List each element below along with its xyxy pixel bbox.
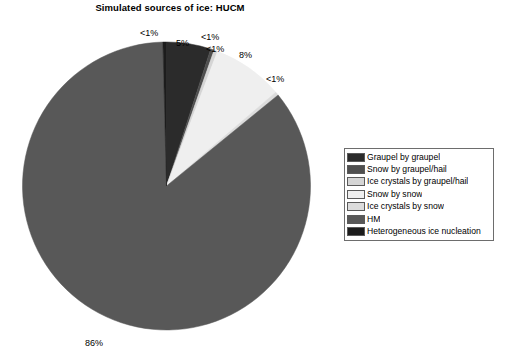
legend-item-label: Ice crystals by snow [367,202,444,211]
legend-item[interactable]: Ice crystals by graupel/hail [347,176,491,188]
legend-item[interactable]: Snow by graupel/hail [347,163,491,175]
pie-slice-value-label: <1% [266,75,284,84]
legend-color-swatch [347,153,365,162]
legend-color-swatch [347,165,365,174]
legend-item-label: Graupel by graupel [367,153,440,162]
legend-color-swatch [347,177,365,186]
chart-legend: Graupel by graupelSnow by graupel/hailIc… [344,148,494,241]
legend-color-swatch [347,227,365,236]
pie-slice-value-label: 86% [85,339,103,348]
legend-item[interactable]: HM [347,213,491,225]
pie-slice-value-label: 5% [176,39,189,48]
pie-slice-value-label: <1% [140,29,158,38]
legend-color-swatch [347,202,365,211]
legend-item-label: HM [367,215,380,224]
legend-item[interactable]: Graupel by graupel [347,151,491,163]
legend-color-swatch [347,190,365,199]
chart-canvas: Simulated sources of ice: HUCM <1%5%<1%<… [0,0,510,350]
legend-item[interactable]: Snow by snow [347,188,491,200]
pie-slice-value-label: <1% [206,45,224,54]
legend-item-label: Snow by snow [367,190,422,199]
pie-slice-value-label: <1% [201,33,219,42]
legend-item-label: Snow by graupel/hail [367,165,447,174]
pie-slice-value-label: 8% [239,51,252,60]
legend-color-swatch [347,215,365,224]
legend-item-label: Heterogeneous ice nucleation [367,227,481,236]
legend-item[interactable]: Heterogeneous ice nucleation [347,225,491,237]
legend-item-label: Ice crystals by graupel/hail [367,177,468,186]
legend-item[interactable]: Ice crystals by snow [347,201,491,213]
